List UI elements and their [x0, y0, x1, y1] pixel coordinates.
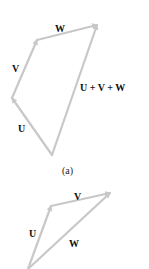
figure-b: V U W: [28, 191, 110, 269]
caption-a: (a): [62, 165, 73, 177]
vector-addition-diagram: W V U U + V + W (a) V U W: [0, 0, 149, 269]
label-u-a: U: [18, 123, 25, 134]
label-sum-a: U + V + W: [80, 82, 125, 93]
vector-w-b: [28, 193, 110, 269]
figure-a: W V U U + V + W (a): [12, 23, 125, 177]
vector-w-a: [37, 25, 97, 40]
label-u-b: U: [29, 228, 36, 239]
label-v-b: V: [74, 191, 82, 202]
label-w-a: W: [55, 23, 65, 34]
label-w-b: W: [69, 238, 79, 249]
label-v-a: V: [12, 63, 20, 74]
